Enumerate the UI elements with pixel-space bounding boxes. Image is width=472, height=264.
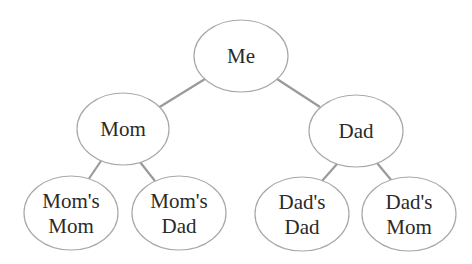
node-dad: Dad (309, 95, 403, 167)
node-dads-dad: Dad'sDad (255, 177, 349, 251)
node-label: Me (227, 44, 255, 68)
nodes: MeMomDadMom'sMomMom'sDadDad'sDadDad'sMom (24, 20, 456, 251)
node-mom: Mom (77, 93, 169, 165)
node-label: Dad (162, 214, 197, 238)
node-label: Dad (339, 119, 374, 143)
node-label: Mom (100, 117, 146, 141)
node-moms-dad: Mom'sDad (132, 176, 226, 250)
family-tree-diagram: MeMomDadMom'sMomMom'sDadDad'sDadDad'sMom (0, 0, 472, 264)
edge-me-to-mom (158, 79, 205, 108)
edge-mom-to-moms-dad (140, 162, 155, 181)
edge-me-to-dad (277, 79, 320, 107)
node-label: Mom (386, 215, 432, 239)
node-moms-mom: Mom'sMom (24, 176, 118, 250)
node-label: Mom's (42, 189, 99, 213)
edge-dad-to-dads-dad (322, 164, 337, 181)
edge-dad-to-dads-mom (377, 163, 392, 181)
edge-mom-to-moms-mom (88, 161, 101, 180)
node-label: Dad (285, 215, 320, 239)
node-me: Me (194, 20, 288, 92)
node-dads-mom: Dad'sMom (362, 177, 456, 251)
node-label: Dad's (386, 190, 433, 214)
node-label: Dad's (279, 190, 326, 214)
node-label: Mom (48, 214, 94, 238)
node-label: Mom's (150, 189, 207, 213)
